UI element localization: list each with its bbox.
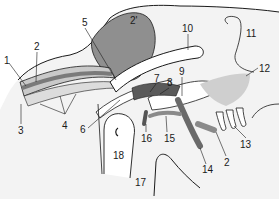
label-14: 14 — [202, 165, 213, 175]
label-2-lower: 2 — [224, 158, 230, 168]
label-15: 15 — [164, 134, 175, 144]
label-18: 18 — [113, 151, 124, 161]
label-4: 4 — [62, 121, 68, 131]
label-2: 2 — [34, 42, 40, 52]
label-11: 11 — [246, 29, 256, 39]
anatomical-diagram: 1 2 2' 3 4 5 6 7 8 9 10 11 12 13 14 15 1… — [0, 0, 279, 199]
label-8: 8 — [167, 78, 173, 88]
label-5: 5 — [82, 18, 88, 28]
label-1: 1 — [4, 56, 10, 66]
label-7: 7 — [154, 74, 160, 84]
label-12: 12 — [259, 64, 270, 74]
label-17: 17 — [135, 178, 146, 188]
structure-18 — [104, 114, 135, 178]
label-6: 6 — [80, 125, 86, 135]
structure-16 — [144, 112, 146, 124]
label-9: 9 — [179, 67, 185, 77]
label-16: 16 — [141, 134, 152, 144]
diagram-illustration — [0, 0, 279, 199]
label-10: 10 — [182, 24, 193, 34]
label-2-prime: 2' — [130, 16, 137, 26]
label-13: 13 — [240, 140, 251, 150]
label-3: 3 — [18, 126, 24, 136]
